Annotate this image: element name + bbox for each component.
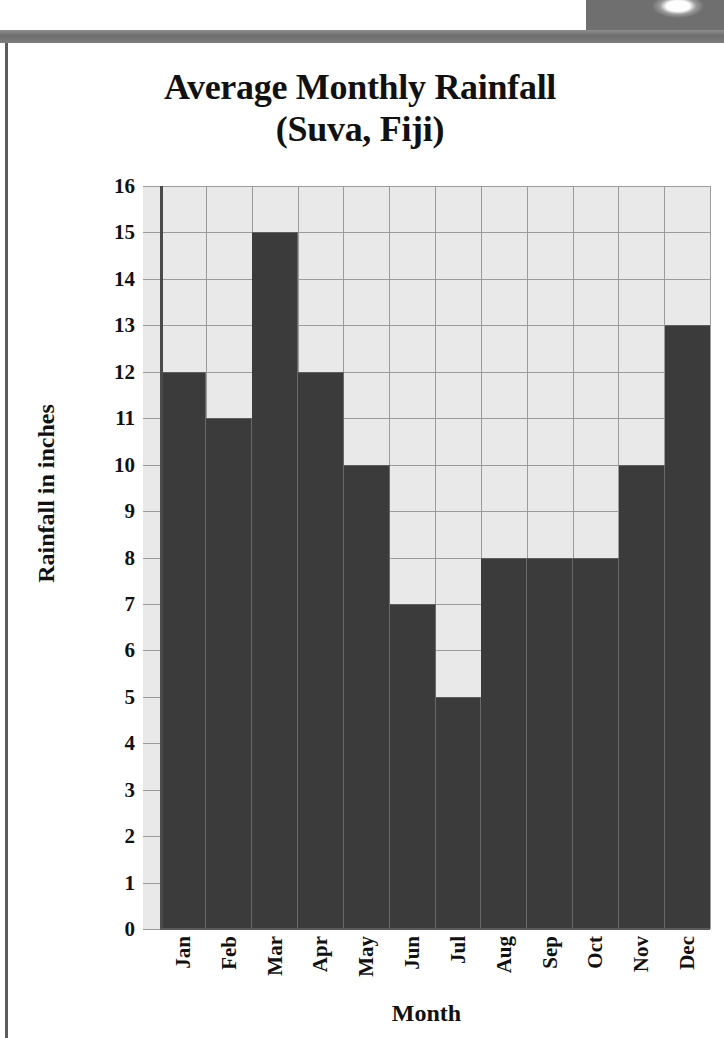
page-canvas: Average Monthly Rainfall (Suva, Fiji) 16… <box>0 0 724 1038</box>
x-tick-label-cell: Mar <box>252 934 298 1006</box>
x-tick-label-cell: Jul <box>435 934 481 1006</box>
y-tick-label: 9 <box>125 499 136 524</box>
x-tick-label: Sep <box>537 936 562 969</box>
x-tick-label: Jul <box>445 936 470 964</box>
bar-apr <box>298 372 344 929</box>
x-tick-label: Dec <box>675 936 700 970</box>
x-tick-label-cell: Nov <box>618 934 664 1006</box>
bar-may <box>344 465 390 929</box>
y-axis-title: Rainfall in inches <box>33 344 60 644</box>
x-axis-tick-labels: JanFebMarAprMayJunJulAugSepOctNovDec <box>160 934 710 1006</box>
x-tick-label: Feb <box>216 936 241 970</box>
x-tick-label: Jan <box>170 936 195 969</box>
chart-title-line-1: Average Monthly Rainfall <box>10 66 710 108</box>
bar-mar <box>252 232 298 929</box>
x-tick-label-cell: Oct <box>572 934 618 1006</box>
y-tick-label: 12 <box>114 359 135 384</box>
y-tick-label: 2 <box>125 824 136 849</box>
chart-title-line-2: (Suva, Fiji) <box>10 108 710 150</box>
chart-plot-area <box>143 186 710 929</box>
x-tick-label-cell: May <box>343 934 389 1006</box>
bar-jan <box>160 372 206 929</box>
x-tick-label: Nov <box>629 936 654 972</box>
y-tick-label: 5 <box>125 684 136 709</box>
x-tick-label-cell: Aug <box>481 934 527 1006</box>
bar-nov <box>619 465 665 929</box>
left-rule <box>5 43 8 1038</box>
x-tick-label-cell: Apr <box>297 934 343 1006</box>
bar-dec <box>665 325 710 929</box>
bar-jul <box>436 697 482 929</box>
y-tick-label: 1 <box>125 870 136 895</box>
top-rule <box>0 30 724 43</box>
bar-oct <box>573 558 619 930</box>
bar-series <box>160 186 710 929</box>
chart-title: Average Monthly Rainfall (Suva, Fiji) <box>10 66 710 150</box>
photo-fragment <box>586 0 724 32</box>
x-axis-title: Month <box>143 1000 710 1027</box>
bar-jun <box>390 604 436 929</box>
x-tick-label: Apr <box>308 936 333 972</box>
y-tick-label: 6 <box>125 638 136 663</box>
x-tick-label-cell: Feb <box>206 934 252 1006</box>
x-tick-label: Oct <box>583 936 608 969</box>
y-tick-label: 13 <box>114 313 135 338</box>
y-tick-label: 14 <box>114 266 135 291</box>
y-tick-label: 7 <box>125 591 136 616</box>
y-axis-tick-labels: 161514131211109876543210 <box>95 186 135 929</box>
x-tick-label: Jun <box>400 936 425 970</box>
x-tick-label: Mar <box>262 936 287 976</box>
x-tick-label-cell: Jun <box>389 934 435 1006</box>
x-tick-label: Aug <box>491 936 516 973</box>
x-axis-line <box>160 928 710 930</box>
y-tick-label: 3 <box>125 777 136 802</box>
y-tick-label: 16 <box>114 174 135 199</box>
gridline <box>710 186 711 929</box>
y-tick-label: 15 <box>114 220 135 245</box>
y-tick-label: 8 <box>125 545 136 570</box>
x-tick-label: May <box>354 936 379 977</box>
bar-feb <box>206 418 252 929</box>
x-tick-label-cell: Sep <box>527 934 573 1006</box>
bar-sep <box>527 558 573 930</box>
y-tick-label: 0 <box>125 917 136 942</box>
y-tick-label: 11 <box>115 406 135 431</box>
x-tick-label-cell: Jan <box>160 934 206 1006</box>
y-tick-label: 10 <box>114 452 135 477</box>
y-axis-line <box>160 186 163 929</box>
y-tick-label: 4 <box>125 731 136 756</box>
x-tick-label-cell: Dec <box>664 934 710 1006</box>
bar-aug <box>481 558 527 930</box>
